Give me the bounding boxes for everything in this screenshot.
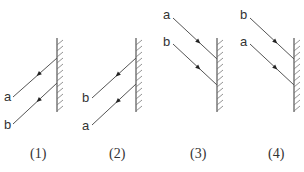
panel-3: ab(3) [163,7,223,162]
panel-4: ba(4) [240,7,300,162]
mirror-hatching [136,40,142,111]
ray-b: b [240,7,294,59]
panel-caption: (1) [30,146,47,162]
mirror-hatching [294,40,300,111]
ray-b: b [82,58,136,105]
panel-caption: (2) [109,146,126,162]
ray-b: b [163,34,217,85]
ray-label: a [163,7,171,22]
ray-a: a [240,34,294,85]
ray-label: a [240,34,248,49]
ray-label: a [4,89,12,104]
ray-a: a [4,58,57,104]
panel-1: ab(1) [4,38,63,162]
ray-a: a [163,7,217,59]
ray-label: b [163,34,170,49]
mirror-hatching [57,40,63,111]
ray-label: b [82,90,89,105]
panel-2: ba(2) [82,38,142,162]
ray-a: a [82,84,136,133]
ray-b: b [4,83,57,132]
mirror-hatching [217,40,223,111]
reflection-diagram: ab(1)ba(2)ab(3)ba(4) [0,0,304,172]
ray-label: b [240,7,247,22]
ray-label: a [82,118,90,133]
panel-caption: (3) [190,146,207,162]
panel-caption: (4) [268,146,285,162]
ray-label: b [4,117,11,132]
